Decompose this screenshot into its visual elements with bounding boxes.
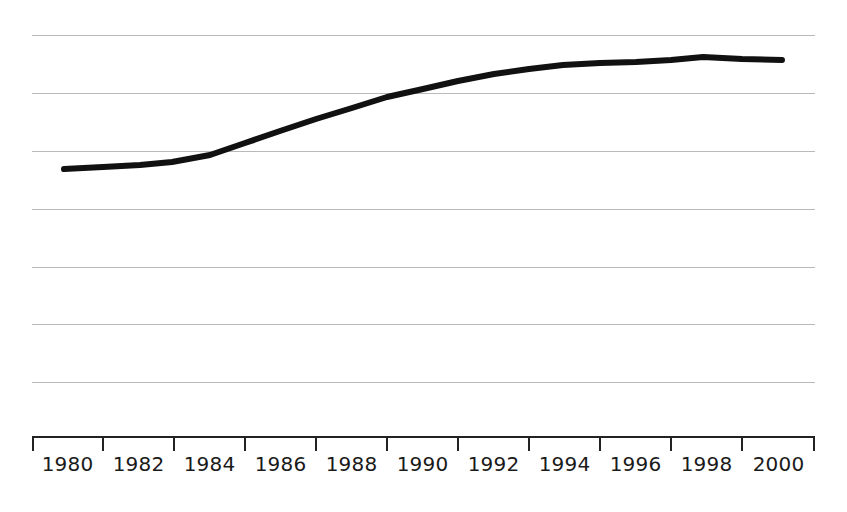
x-axis-tick-label: 1990 — [387, 452, 458, 476]
x-axis-tick-label: 1996 — [600, 452, 671, 476]
x-axis: 1980198219841986198819901992199419961998… — [0, 430, 847, 512]
line-chart: 1980198219841986198819901992199419961998… — [0, 0, 847, 512]
data-series-line — [0, 0, 847, 430]
x-axis-tick-label: 2000 — [742, 452, 815, 476]
x-axis-tick-label: 1988 — [316, 452, 387, 476]
x-axis-tick-label: 1998 — [671, 452, 742, 476]
x-axis-tick-label: 1992 — [458, 452, 529, 476]
x-axis-tick-labels: 1980198219841986198819901992199419961998… — [0, 452, 847, 486]
x-axis-tick-label: 1984 — [174, 452, 245, 476]
x-axis-tick-label: 1980 — [32, 452, 103, 476]
x-axis-tick-label: 1994 — [529, 452, 600, 476]
plot-area — [0, 0, 847, 430]
x-axis-tick-label: 1986 — [245, 452, 316, 476]
x-axis-tick-label: 1982 — [103, 452, 174, 476]
